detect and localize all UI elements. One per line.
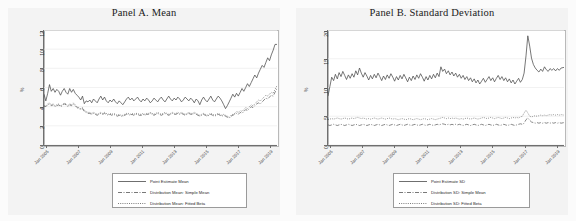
panel-a-legend: Point Estimate Mean Distribution Mean: S… (112, 173, 247, 208)
panel-a-series (44, 30, 277, 145)
panel-b: Panel B. Standard Deviation (288, 0, 576, 221)
figure-container: Panel A. Mean (0, 0, 576, 221)
panel-a-plot-area (44, 30, 277, 145)
panel-a-xtick-mark-7 (270, 145, 271, 148)
panel-a-ytick-label-12: 12 (39, 31, 45, 45)
solid-line-icon (399, 178, 427, 185)
panel-b-y-axis-label: % (303, 82, 309, 92)
panel-a-title-artifact (176, 9, 179, 15)
panel-b-legend-item-1[interactable]: Distribution SD: Simple Mean (399, 188, 486, 196)
panel-a-legend-item-0[interactable]: Point Estimate Mean (118, 177, 189, 185)
panel-b-title-artifact (388, 19, 391, 25)
panel-a-ytick-label-4: 4 (39, 107, 45, 119)
panel-b-legend-label-2: Distribution SD: Fitted Beta (431, 201, 482, 206)
panel-a-legend-label-1: Distribution Mean: Simple Mean (150, 190, 209, 195)
panel-b-plot-area (328, 30, 564, 145)
panel-b-xtick-mark-5 (492, 145, 493, 148)
panel-a-xtick-mark-0 (46, 145, 47, 148)
panel-b-legend-label-0: Point Estimate SD (431, 179, 465, 184)
panel-b-xtick-mark-4 (460, 145, 461, 148)
panel-b-title: Panel B. Standard Deviation (288, 7, 576, 18)
panel-a-ytick-label-2: 2 (39, 126, 45, 138)
panel-a-ytick-label-10: 10 (39, 50, 45, 64)
panel-a-xtick-mark-2 (110, 145, 111, 148)
panel-b-legend: Point Estimate SD Distribution SD: Simpl… (393, 173, 530, 208)
panel-a-xtick-mark-5 (206, 145, 207, 148)
panel-b-legend-item-2[interactable]: Distribution SD: Fitted Beta (399, 199, 482, 207)
panel-b-legend-item-0[interactable]: Point Estimate SD (399, 177, 465, 185)
panel-b-ytick-label-20: 20 (323, 31, 329, 45)
panel-b-xtick-mark-6 (525, 145, 526, 148)
solid-line-icon (118, 178, 146, 185)
panel-b-ytick-label-5: 5 (323, 117, 329, 129)
panel-a-title: Panel A. Mean (0, 7, 288, 18)
panel-a-xtick-mark-3 (142, 145, 143, 148)
panel-a-xtick-mark-6 (238, 145, 239, 148)
panel-a-y-axis-label: % (19, 82, 25, 92)
panel-b-xtick-mark-2 (394, 145, 395, 148)
panel-b-xtick-mark-0 (330, 145, 331, 148)
panel-a-legend-item-2[interactable]: Distribution Mean: Fitted Beta (118, 199, 205, 207)
dotted-line-icon (118, 200, 146, 207)
panel-b-xtick-mark-7 (557, 145, 558, 148)
panel-b-xtick-mark-3 (427, 145, 428, 148)
panel-b-xtick-mark-1 (362, 145, 363, 148)
panel-b-ytick-label-10: 10 (323, 88, 329, 102)
panel-a-legend-label-0: Point Estimate Mean (150, 179, 189, 184)
dotted-line-icon (399, 200, 427, 207)
dash-dot-line-icon (399, 189, 427, 196)
panel-b-series (328, 30, 564, 145)
dash-dot-line-icon (118, 189, 146, 196)
panel-b-ytick-label-15: 15 (323, 59, 329, 73)
panel-a-xtick-mark-4 (174, 145, 175, 148)
panel-a: Panel A. Mean (0, 0, 288, 221)
panel-a-legend-item-1[interactable]: Distribution Mean: Simple Mean (118, 188, 209, 196)
panel-a-legend-label-2: Distribution Mean: Fitted Beta (150, 201, 205, 206)
panel-b-legend-label-1: Distribution SD: Simple Mean (431, 190, 486, 195)
panel-a-xtick-mark-1 (78, 145, 79, 148)
panel-a-ytick-label-8: 8 (39, 69, 45, 81)
panel-a-ytick-label-6: 6 (39, 88, 45, 100)
